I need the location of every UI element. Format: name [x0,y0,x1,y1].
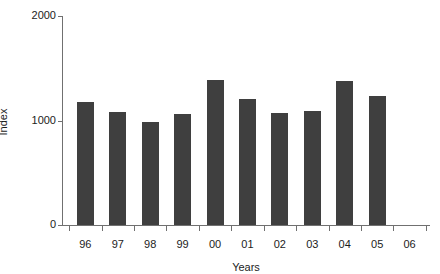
bar [336,81,353,225]
y-axis-tick-label: 1000 [16,115,56,126]
bar [304,111,321,225]
bar [142,122,159,225]
x-axis-tick [296,226,297,231]
x-axis-tick-label: 02 [265,238,295,250]
x-axis-tick-label: 04 [330,238,360,250]
bar [239,99,256,225]
bar [174,114,191,225]
x-axis-tick-label: 01 [232,238,262,250]
x-axis-tick [264,226,265,231]
y-axis-line [62,16,63,225]
y-axis-tick-labels: 010002000 [12,0,56,274]
bar [77,102,94,225]
y-axis-tick-label: 2000 [16,10,56,21]
y-axis-tick [58,121,62,122]
x-axis-tick-label: 05 [362,238,392,250]
x-axis-title: Years [62,261,430,273]
x-axis-tick-label: 97 [103,238,133,250]
x-axis-tick-label: 96 [70,238,100,250]
x-axis-tick [199,226,200,231]
x-axis-tick-label: 00 [200,238,230,250]
x-axis-tick [361,226,362,231]
x-axis-tick [393,226,394,231]
x-axis-tick [102,226,103,231]
bar-chart: Index 010002000 9697989900010203040506 Y… [0,0,440,274]
x-axis-tick [231,226,232,231]
x-axis-tick [426,226,427,231]
plot-area: 9697989900010203040506 Years [62,16,430,225]
x-axis-tick-label: 99 [168,238,198,250]
y-axis-tick-label: 0 [16,219,56,230]
bar [109,112,126,225]
x-axis-tick [69,226,70,231]
x-axis-tick [329,226,330,231]
x-axis-line [62,225,430,226]
x-axis-tick [166,226,167,231]
bar [207,80,224,225]
x-axis-tick [134,226,135,231]
x-axis-tick-label: 03 [297,238,327,250]
x-axis-tick-label: 06 [395,238,425,250]
y-axis-tick [58,225,62,226]
y-axis-title-text: Index [0,109,9,136]
bar [369,96,386,225]
bar [271,113,288,225]
y-axis-tick [58,16,62,17]
x-axis-tick-label: 98 [135,238,165,250]
